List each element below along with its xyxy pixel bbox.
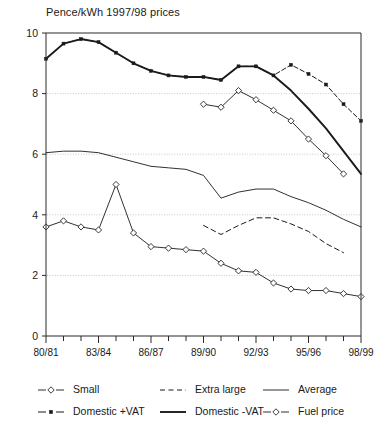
series-line (46, 39, 361, 121)
data-point-marker (200, 248, 206, 254)
x-tick-label: 95/96 (296, 347, 321, 358)
data-point-marker (290, 63, 293, 66)
legend-label: Fuel price (298, 405, 344, 417)
data-point-marker (288, 286, 294, 292)
chart-plot: 0246810 80/8183/8486/8789/9092/9395/9698… (0, 0, 389, 431)
y-tick-label: 8 (32, 87, 38, 99)
data-point-marker (183, 247, 189, 253)
y-tick-label: 0 (32, 330, 38, 342)
series-line (204, 91, 344, 174)
series-line (46, 151, 361, 227)
data-point-marker (323, 287, 329, 293)
legend: SmallExtra largeAverageDomestic +VATDome… (34, 381, 377, 421)
legend-marker-square (49, 410, 52, 413)
legend-item-domestic-vat[interactable]: Domestic +VAT (34, 403, 152, 421)
data-point-marker (165, 245, 171, 251)
data-point-marker (270, 107, 276, 113)
data-point-marker (253, 269, 259, 275)
series-average (46, 151, 361, 227)
legend-item-fuel-price[interactable]: Fuel price (259, 403, 377, 421)
data-point-marker (270, 280, 276, 286)
x-tick-label: 83/84 (86, 347, 111, 358)
y-axis-ticks-group: 0246810 (26, 27, 46, 342)
data-point-marker (60, 218, 66, 224)
legend-label: Extra large (195, 383, 246, 395)
y-tick-label: 2 (32, 269, 38, 281)
series-extra-large (204, 218, 344, 253)
data-point-marker (253, 97, 259, 103)
y-tick-label: 6 (32, 148, 38, 160)
y-tick-label: 10 (26, 27, 38, 39)
data-point-marker (78, 224, 84, 230)
data-point-marker (235, 268, 241, 274)
x-tick-label: 92/93 (243, 347, 268, 358)
data-point-marker (325, 83, 328, 86)
x-tick-label: 80/81 (33, 347, 58, 358)
data-point-marker (218, 260, 224, 266)
x-axis-labels-group: 80/8183/8486/8789/9092/9395/9698/99 (33, 347, 373, 358)
series-small (200, 87, 346, 177)
chart-container: Pence/kWh 1997/98 prices 0246810 80/8183… (0, 0, 389, 431)
legend-label: Small (73, 383, 99, 395)
series-line (46, 185, 361, 297)
data-point-marker (307, 72, 310, 75)
legend-item-small[interactable]: Small (34, 381, 152, 399)
y-tick-label: 4 (32, 209, 38, 221)
legend-item-average[interactable]: Average (259, 381, 377, 399)
x-tick-label: 86/87 (138, 347, 163, 358)
legend-label: Average (298, 383, 337, 395)
series-line (204, 218, 344, 253)
legend-item-extra-large[interactable]: Extra large (156, 381, 274, 399)
x-tick-label: 98/99 (348, 347, 373, 358)
data-point-marker (342, 103, 345, 106)
data-point-marker (305, 287, 311, 293)
data-series-group (43, 38, 364, 300)
x-tick-label: 89/90 (191, 347, 216, 358)
x-axis-ticks-group (46, 336, 361, 343)
series-fuel-price (43, 181, 364, 299)
legend-item-domestic-vat[interactable]: Domestic -VAT (156, 403, 274, 421)
data-point-marker (200, 101, 206, 107)
data-point-marker (340, 290, 346, 296)
series-domestic-vat (45, 38, 363, 123)
legend-label: Domestic -VAT (195, 405, 265, 417)
legend-label: Domestic +VAT (73, 405, 145, 417)
data-point-marker (113, 181, 119, 187)
data-point-marker (95, 227, 101, 233)
